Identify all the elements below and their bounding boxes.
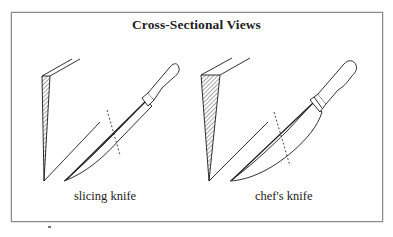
chefs-knife-label: chef's knife [255, 189, 312, 204]
slicing-knife-label: slicing knife [74, 189, 136, 204]
chefs-handle [318, 61, 357, 104]
slicing-handle [148, 64, 179, 100]
slicing-cross-section [42, 76, 50, 181]
slicing-knife-illustration [42, 59, 179, 181]
page-mark [48, 226, 51, 228]
chefs-knife-illustration [201, 58, 357, 181]
chefs-cross-section [201, 75, 220, 181]
knife-diagram [0, 0, 393, 237]
